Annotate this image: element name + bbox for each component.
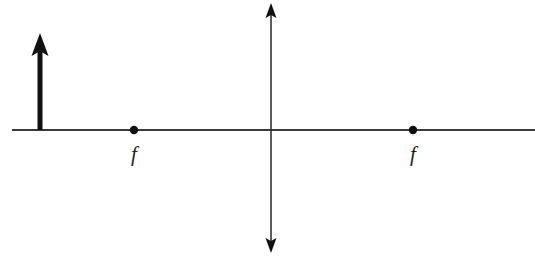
converging-lens [266,3,277,253]
focal-dot-icon [130,126,138,134]
focal-dot-icon [409,126,417,134]
lens-diagram: f f [0,0,535,258]
focal-point-left: f [130,126,140,166]
focal-point-right: f [409,126,419,166]
focal-label: f [131,142,140,166]
object-arrow [32,33,49,130]
focal-label: f [410,142,419,166]
